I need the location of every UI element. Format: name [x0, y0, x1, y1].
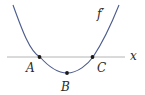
function-graph: [0, 0, 145, 95]
point-a-label: A: [26, 62, 35, 74]
curve-label: f′: [97, 8, 104, 20]
point-a-dot: [38, 55, 42, 59]
point-c-label: C: [97, 62, 106, 74]
point-b-label: B: [61, 81, 70, 93]
point-c-dot: [91, 55, 95, 59]
axis-label: x: [130, 50, 137, 62]
point-b-dot: [65, 71, 69, 75]
